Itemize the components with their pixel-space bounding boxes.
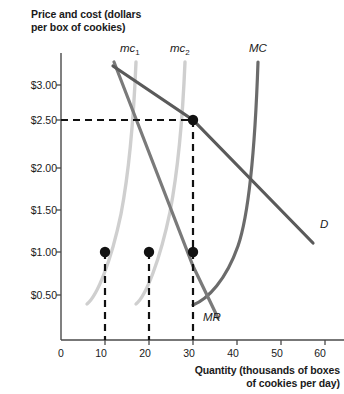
curve-D xyxy=(113,66,313,243)
x-tick-marks xyxy=(105,340,325,345)
chart-plot-area xyxy=(0,0,344,394)
curve-label-mc2-text: mc xyxy=(170,42,185,54)
curve-label-mc2: mc2 xyxy=(170,42,190,57)
curve-label-mc1-text: mc xyxy=(120,42,135,54)
economics-chart-figure: Price and cost (dollars per box of cooki… xyxy=(0,0,344,394)
curve-MC xyxy=(193,62,258,305)
curve-label-MC: MC xyxy=(249,42,267,54)
industry-output-point xyxy=(188,247,198,257)
curve-label-mc2-sub: 2 xyxy=(185,48,189,57)
monopoly-price-point xyxy=(188,115,198,125)
curve-label-MR: MR xyxy=(203,311,221,323)
curve-label-D: D xyxy=(320,218,328,230)
curve-label-mc1: mc1 xyxy=(120,42,140,57)
curve-label-mc1-sub: 1 xyxy=(135,48,139,57)
firm-output-point-1 xyxy=(100,247,110,257)
y-tick-marks xyxy=(56,85,61,295)
firm-output-point-2 xyxy=(144,247,154,257)
